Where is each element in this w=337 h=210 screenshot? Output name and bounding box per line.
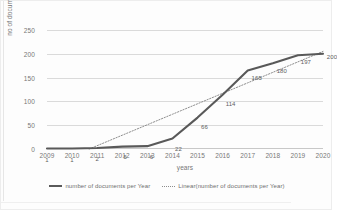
x-axis-tick-label: 2013: [140, 152, 155, 159]
x-axis-tick-label: 2017: [240, 152, 255, 159]
y-axis-title: no of documents: [6, 0, 13, 51]
data-point-label: 114: [226, 101, 236, 107]
x-axis-tick-label: 2011: [90, 152, 104, 159]
trendline-dotted: [89, 51, 323, 149]
data-point-label: 200: [327, 54, 337, 60]
y-axis-tick-label: 150: [1, 75, 35, 82]
y-axis-tick-label: 200: [1, 51, 35, 58]
series-plot: [47, 30, 323, 149]
y-axis-tick-label: 50: [1, 122, 35, 129]
data-point-label: 197: [301, 59, 311, 65]
scan-edge-artifact-bottom: [1, 202, 291, 203]
x-axis-tick-label: 2009: [40, 152, 55, 159]
legend-item-label: Linear(number of documents per Year): [178, 183, 284, 189]
data-point-label: 22: [175, 146, 182, 152]
legend-item-label: number of documents per Year: [65, 183, 150, 189]
x-axis-tick-group: 2009201020112012201320142015201620172018…: [47, 152, 323, 164]
x-axis-tick-label: 2014: [165, 152, 180, 159]
x-axis-tick-label: 2019: [290, 152, 305, 159]
y-axis-tick-label: 0: [1, 146, 35, 153]
data-point-label: 165: [252, 75, 262, 81]
dotted-line-icon: [162, 186, 175, 187]
x-axis-tick-label: 2015: [190, 152, 205, 159]
y-axis-tick-label: 100: [1, 98, 35, 105]
data-point-label: 180: [277, 68, 287, 74]
y-axis-tick-label: 250: [1, 27, 35, 34]
x-axis-tick-label: 2010: [65, 152, 80, 159]
x-axis-tick-label: 2016: [215, 152, 230, 159]
chart-legend: number of documents per Year Linear(numb…: [1, 183, 333, 189]
data-point-label: 66: [201, 124, 208, 130]
legend-item-documents-per-year[interactable]: number of documents per Year: [49, 183, 150, 189]
x-axis-tick-label: 2020: [316, 152, 331, 159]
solid-line-icon: [49, 185, 62, 187]
x-axis-tick-label: 2018: [265, 152, 280, 159]
x-axis-title: years: [47, 164, 323, 171]
legend-item-linear-trendline[interactable]: Linear(number of documents per Year): [162, 183, 284, 189]
x-axis-tick-label: 2012: [115, 152, 130, 159]
